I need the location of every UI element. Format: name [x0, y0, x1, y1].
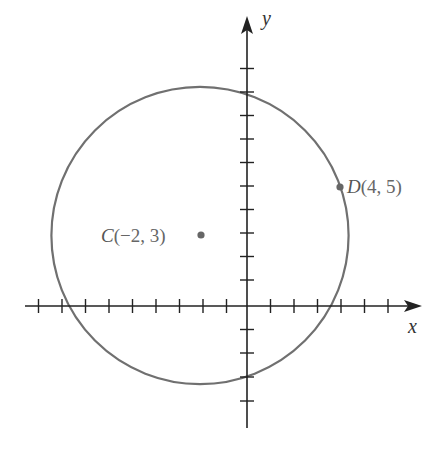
- y-axis: [240, 16, 254, 428]
- x-axis-label: x: [407, 315, 417, 337]
- point-c-dot: [197, 231, 204, 238]
- point-c-coords: (−2, 3): [114, 225, 166, 247]
- point-d-dot: [336, 183, 343, 190]
- point-c-name: C: [101, 225, 114, 246]
- x-axis: [25, 299, 422, 313]
- point-d-name: D: [346, 176, 361, 197]
- y-axis-label: y: [260, 7, 271, 30]
- point-d-label: D(4, 5): [346, 176, 402, 198]
- point-c-label: C(−2, 3): [101, 225, 166, 247]
- coordinate-plane: y x C(−2, 3) D(4, 5): [0, 0, 445, 456]
- point-d-coords: (4, 5): [361, 176, 402, 198]
